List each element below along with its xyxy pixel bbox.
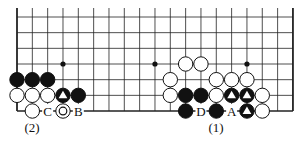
star-point-icon: [60, 61, 65, 66]
black-stone-icon: [10, 72, 24, 86]
point-label-c: C: [43, 104, 52, 119]
black-stone-icon: [194, 88, 208, 102]
black-stone-icon: [71, 88, 85, 102]
go-board-diagram: CBDA (2)(1): [0, 0, 302, 144]
white-stone-icon: [255, 104, 269, 118]
white-stone-icon: [25, 104, 39, 118]
point-label-d: D: [196, 104, 205, 119]
white-stone-icon: [56, 104, 70, 118]
white-stone-icon: [10, 88, 24, 102]
captions: (2)(1): [24, 120, 223, 135]
black-stone-icon: [40, 72, 54, 86]
white-stone-icon: [163, 88, 177, 102]
black-stone-icon: [25, 72, 39, 86]
black-stone-icon: [178, 88, 192, 102]
diagram-caption: (1): [208, 120, 223, 135]
white-stone-icon: [194, 57, 208, 71]
white-stone-icon: [209, 72, 223, 86]
black-stone-icon: [209, 104, 223, 118]
white-stone-icon: [178, 57, 192, 71]
white-stone-icon: [209, 88, 223, 102]
white-stone-icon: [40, 88, 54, 102]
white-stone-icon: [255, 88, 269, 102]
white-stone-icon: [163, 72, 177, 86]
white-stone-icon: [224, 72, 238, 86]
black-stone-icon: [178, 104, 192, 118]
white-stone-icon: [240, 72, 254, 86]
star-point-icon: [244, 61, 249, 66]
star-point-icon: [152, 61, 157, 66]
white-stone-icon: [25, 88, 39, 102]
diagram-caption: (2): [24, 120, 39, 135]
point-label-a: A: [227, 104, 237, 119]
point-label-b: B: [74, 104, 83, 119]
